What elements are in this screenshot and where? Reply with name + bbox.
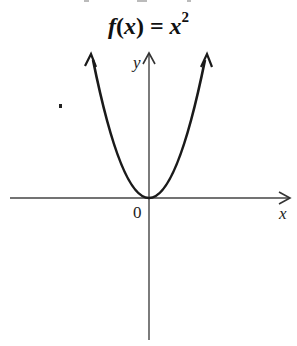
curve-left-arrow-icon <box>85 54 96 67</box>
cutoff-text-fragments <box>84 0 191 2</box>
y-axis-label: y <box>131 53 141 72</box>
curve-right-arrow-icon <box>201 54 212 67</box>
graph: y 0 x <box>0 0 297 346</box>
x-axis-label: x <box>278 204 287 223</box>
stray-dot <box>59 104 62 108</box>
origin-label: 0 <box>133 203 142 222</box>
